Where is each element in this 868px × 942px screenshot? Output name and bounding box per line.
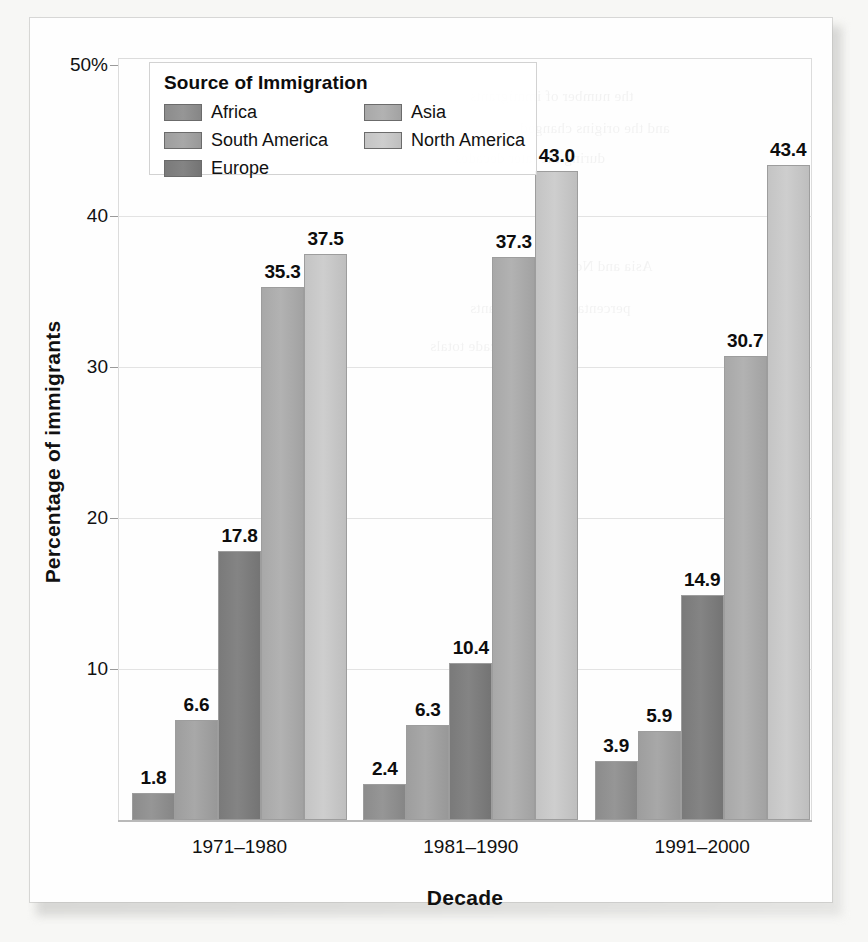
legend-column-right: AsiaNorth America (364, 100, 525, 181)
y-tick-mark (110, 669, 118, 670)
gridline (118, 216, 812, 217)
x-axis-baseline (118, 820, 812, 822)
legend-swatch-icon (364, 132, 402, 149)
bar[interactable] (175, 720, 218, 820)
x-axis-group-label: 1991–2000 (565, 836, 840, 858)
legend-item-north-america[interactable]: North America (364, 128, 525, 153)
bar[interactable] (492, 257, 535, 820)
legend-title: Source of Immigration (164, 72, 536, 94)
x-axis-title: Decade (118, 886, 812, 910)
legend-swatch-icon (164, 104, 202, 121)
legend-label: Asia (411, 102, 446, 123)
bar[interactable] (767, 165, 810, 820)
bar-chart: 1020304050% Percentage of immigrants Dec… (0, 0, 868, 942)
legend: Source of Immigration AfricaSouth Americ… (149, 62, 537, 175)
bar[interactable] (304, 254, 347, 820)
legend-label: Europe (211, 158, 269, 179)
legend-label: Africa (211, 102, 257, 123)
legend-column-left: AfricaSouth AmericaEurope (164, 100, 360, 181)
bar[interactable] (363, 784, 406, 820)
gridline (118, 367, 812, 368)
bar[interactable] (535, 171, 578, 820)
legend-item-asia[interactable]: Asia (364, 100, 525, 125)
y-tick-label: 50% (40, 55, 108, 74)
y-tick-mark (110, 518, 118, 519)
y-tick-mark (110, 216, 118, 217)
legend-item-africa[interactable]: Africa (164, 100, 360, 125)
legend-swatch-icon (164, 132, 202, 149)
bar[interactable] (681, 595, 724, 820)
legend-item-south-america[interactable]: South America (164, 128, 360, 153)
bar[interactable] (724, 356, 767, 820)
bar[interactable] (261, 287, 304, 820)
y-tick-mark (110, 65, 118, 66)
bar-value-label: 37.5 (296, 228, 355, 250)
legend-swatch-icon (164, 160, 202, 177)
bar[interactable] (218, 551, 261, 820)
bar[interactable] (406, 725, 449, 820)
bar-value-label: 43.4 (759, 139, 818, 161)
legend-label: South America (211, 130, 328, 151)
y-axis-title: Percentage of immigrants (41, 192, 65, 712)
bar[interactable] (638, 731, 681, 820)
y-tick-mark (110, 367, 118, 368)
bar[interactable] (449, 663, 492, 820)
gridline (118, 518, 812, 519)
legend-label: North America (411, 130, 525, 151)
bar[interactable] (595, 761, 638, 820)
bar[interactable] (132, 793, 175, 820)
legend-swatch-icon (364, 104, 402, 121)
legend-item-europe[interactable]: Europe (164, 156, 360, 181)
